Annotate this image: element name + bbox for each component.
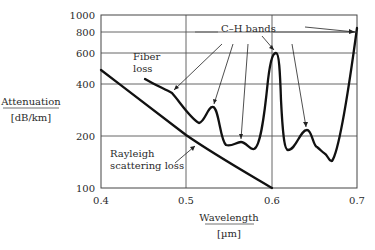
attenuation-chart: 1000 800 600 400 200 100 0.4 0.5 0.6 0.7… [0, 0, 375, 250]
x-tick: 0.7 [349, 195, 365, 206]
rayleigh-annotation: Rayleigh scattering loss [110, 146, 195, 171]
y-ticks: 1000 800 600 400 200 100 [70, 10, 95, 194]
y-tick: 600 [76, 48, 95, 59]
fiber-loss-curve [145, 28, 357, 161]
y-tick: 200 [76, 131, 95, 142]
y-tick: 800 [76, 27, 95, 38]
rayleigh-label-line1: Rayleigh [110, 148, 155, 159]
x-ticks: 0.4 0.5 0.6 0.7 [93, 195, 365, 206]
y-axis-unit: [dB/km] [11, 112, 52, 123]
x-tick: 0.4 [93, 195, 109, 206]
y-axis-title: Attenuation [dB/km] [0, 96, 61, 123]
fiber-label-line1: Fiber [133, 51, 160, 62]
y-axis-label: Attenuation [0, 96, 61, 107]
fiber-loss-annotation: Fiber loss [133, 51, 160, 74]
x-axis-unit: [µm] [217, 228, 241, 239]
y-tick: 100 [76, 183, 95, 194]
x-axis-label: Wavelength [199, 212, 259, 223]
x-tick: 0.6 [264, 195, 280, 206]
fiber-label-line2: loss [133, 63, 152, 74]
x-axis-title: Wavelength [µm] [199, 212, 259, 239]
x-tick: 0.5 [178, 195, 194, 206]
rayleigh-label-line2: scattering loss [110, 160, 184, 171]
y-tick: 1000 [70, 10, 95, 21]
ch-bands-label: C–H bands [221, 23, 276, 34]
y-tick: 400 [76, 79, 95, 90]
